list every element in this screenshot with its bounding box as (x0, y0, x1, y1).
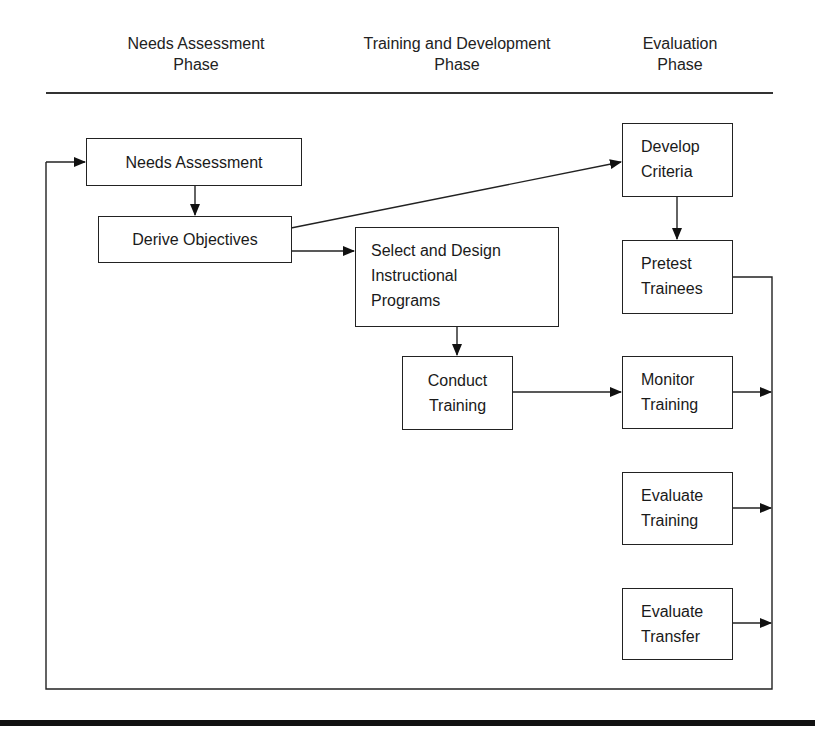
node-label: Training (429, 393, 486, 418)
node-label: Conduct (428, 368, 488, 393)
node-pretest-trainees: Pretest Trainees (622, 240, 733, 314)
node-label: Derive Objectives (132, 227, 257, 252)
node-needs-assessment: Needs Assessment (86, 138, 302, 186)
node-label: Training (641, 508, 732, 533)
node-label: Evaluate (641, 483, 732, 508)
node-label: Criteria (641, 159, 732, 184)
node-label: Monitor (641, 367, 732, 392)
node-monitor-training: Monitor Training (622, 356, 733, 429)
node-label: Instructional (371, 263, 558, 288)
node-evaluate-training: Evaluate Training (622, 472, 733, 545)
node-label: Training (641, 392, 732, 417)
node-label: Select and Design (371, 238, 558, 263)
node-label: Trainees (641, 276, 732, 301)
node-evaluate-transfer: Evaluate Transfer (622, 588, 733, 660)
footer-divider (0, 720, 815, 726)
node-label: Needs Assessment (126, 150, 263, 175)
node-develop-criteria: Develop Criteria (622, 123, 733, 197)
node-label: Transfer (641, 624, 732, 649)
node-derive-objectives: Derive Objectives (98, 216, 292, 263)
node-label: Pretest (641, 251, 732, 276)
node-label: Develop (641, 134, 732, 159)
node-label: Evaluate (641, 599, 732, 624)
node-conduct-training: Conduct Training (402, 356, 513, 430)
arrow-derive-to-criteria (291, 162, 621, 228)
node-label: Programs (371, 288, 558, 313)
node-select-design-programs: Select and Design Instructional Programs (355, 227, 559, 327)
